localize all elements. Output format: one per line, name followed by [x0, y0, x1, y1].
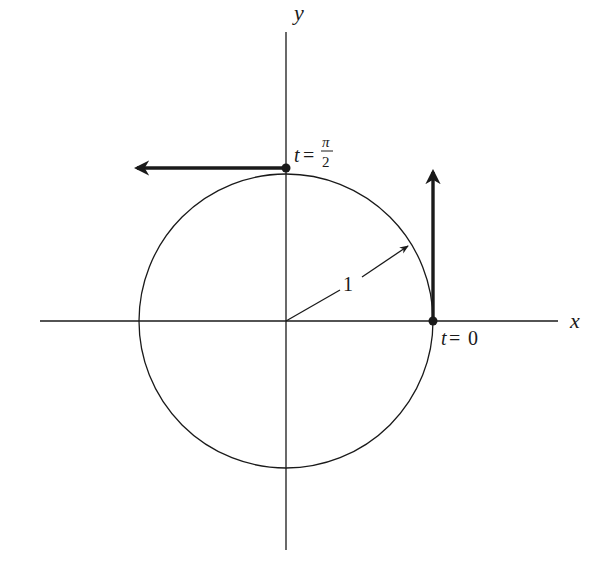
point-t-pi-over-2 — [282, 164, 291, 173]
y-axis-label: y — [292, 0, 304, 25]
t-pi2-label-den: 2 — [322, 154, 330, 170]
t-pi2-label-var: t — [294, 144, 300, 166]
unit-circle-diagram: 1 x y t = 0 t = π 2 — [0, 0, 609, 580]
x-axis-label: x — [569, 308, 580, 333]
radius-label: 1 — [343, 273, 353, 295]
radius-arrow-lower — [286, 290, 340, 321]
point-t0 — [429, 317, 438, 326]
t-pi2-label-eq: = — [303, 144, 314, 166]
t0-label-eq: = — [449, 327, 460, 349]
t0-label-val: 0 — [468, 327, 478, 349]
radius-arrow-upper — [362, 246, 408, 277]
t0-label-var: t — [441, 327, 447, 349]
t-pi2-label-num: π — [322, 134, 330, 150]
